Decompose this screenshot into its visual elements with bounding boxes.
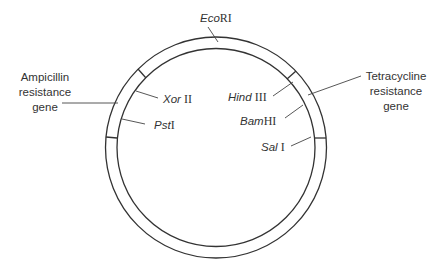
psti-pointer <box>122 119 145 124</box>
site-bamhi-italic: Bam <box>240 115 264 127</box>
ampicillin-line-3: gene <box>8 100 82 115</box>
hindiii-pointer <box>273 82 293 96</box>
bamhi-pointer <box>285 105 303 118</box>
site-sali-roman: I <box>278 140 285 154</box>
site-label-hindiii: Hind III <box>228 91 267 104</box>
plasmid-inner-ring <box>117 49 315 247</box>
site-psti-italic: Pst <box>154 119 171 131</box>
site-ecori-roman: RI <box>220 11 232 25</box>
site-hindiii-italic: Hind <box>228 91 252 103</box>
site-ecori-italic: Eco <box>200 12 220 24</box>
ampicillin-line-2: resistance <box>8 85 82 100</box>
tetracycline-line-1: Tetracycline <box>356 69 436 84</box>
ecori-pointer <box>208 27 218 42</box>
gene-label-ampicillin: Ampicillin resistance gene <box>8 70 82 115</box>
divider-upper-left <box>138 69 146 78</box>
site-hindiii-roman: III <box>252 90 267 104</box>
site-label-psti: PstI <box>154 119 175 132</box>
site-label-sali: Sal I <box>261 141 285 154</box>
site-label-ecori: EcoRI <box>200 12 232 25</box>
site-xorii-italic: Xor <box>163 93 181 105</box>
tetracycline-line-3: gene <box>356 99 436 114</box>
site-label-bamhi: BamHI <box>240 115 276 128</box>
gene-label-tetracycline: Tetracycline resistance gene <box>356 69 436 114</box>
site-bamhi-roman: HI <box>264 114 277 128</box>
site-xorii-roman: II <box>181 92 192 106</box>
site-label-xorii: Xor II <box>163 93 192 106</box>
divider-left <box>106 137 117 138</box>
tetracycline-pointer <box>308 76 361 95</box>
sali-pointer <box>291 137 311 146</box>
site-sali-italic: Sal <box>261 141 278 153</box>
divider-upper-right <box>287 71 296 79</box>
xorii-pointer <box>136 91 158 98</box>
plasmid-diagram <box>0 0 439 269</box>
tetracycline-line-2: resistance <box>356 84 436 99</box>
site-psti-roman: I <box>171 118 175 132</box>
ampicillin-line-1: Ampicillin <box>8 70 82 85</box>
